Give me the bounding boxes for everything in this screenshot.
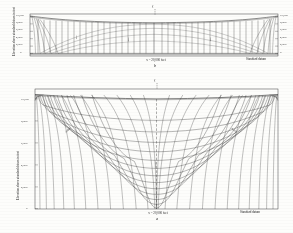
panel-b-ytick-2: 6,000 [16,27,23,31]
panel-b-centerline-tick-icon [154,9,156,15]
panel-b-interior-label-1: 200 [127,37,130,41]
panel-b-ytick-right-3: 4,000 [280,35,287,39]
panel-b-key: b [154,63,156,68]
panel-a-ytick-4: 2,000 [21,185,28,189]
panel-b-interior-label-0: 100 [75,35,78,39]
panel-b-ytick-5: 0 [20,50,21,54]
panel-a-flow-net: 10,000 8,000 6,000 4,000 2,000 0 4,000 4… [35,89,278,209]
panel-b-ytick-right-1: 8,000 [280,20,287,24]
panel-b-x-caption: x = 20,000 feet [116,58,196,62]
panel-b-plot-svg [30,14,278,56]
panel-a-datum-label: Standard datum [240,210,260,214]
panel-a-ytick-2: 6,000 [21,141,28,145]
panel-a-centerline-tick-icon [156,83,158,89]
panel-a-flowline-label-center: 8,000 [154,161,157,167]
panel-a-ytick-1: 8,000 [21,119,28,123]
figure-root: 10,000 8,000 6,000 4,000 2,000 0 10,000 … [0,0,293,233]
panel-a-x-caption: x = 20,000 feet [118,211,198,215]
panel-b-ytick-3: 4,000 [16,35,23,39]
panel-a-key: a [156,216,158,221]
panel-a-plot-svg [35,89,278,209]
panel-b-ytick-right-2: 6,000 [280,27,287,31]
panel-b-y-axis-label: Elevation above standard datum in feet [12,7,16,56]
panel-b-equipotentials-right [250,17,276,53]
panel-a-y-axis-label: Elevation above standard datum in feet [16,151,20,200]
panel-b-ytick-right-5: 0 [280,50,281,54]
panel-b-equipotentials-left [32,17,58,53]
panel-b-centerline-marker: ¢ [152,5,154,9]
panel-b-compressed-section: 10,000 8,000 6,000 4,000 2,000 0 10,000 … [30,14,278,56]
panel-b-ytick-1: 8,000 [16,20,23,24]
panel-a-ytick-3: 4,000 [21,163,28,167]
panel-a-flow-lines [36,95,276,209]
panel-b-water-table [30,16,278,23]
panel-a-centerline-marker: ¢ [154,79,156,83]
panel-a-ytick-0: 10,000 [21,97,29,101]
panel-b-ytick-0: 10,000 [16,13,24,17]
panel-b-interior-label-2: 300 [209,37,212,41]
panel-b-ytick-4: 2,000 [16,42,23,46]
panel-a-ytick-5: 0 [26,206,27,210]
panel-b-datum-label: Standard datum [246,57,266,61]
panel-b-flow-lines [38,19,270,53]
panel-a-frame [35,89,278,209]
panel-b-ytick-right-4: 2,000 [280,42,287,46]
panel-b-ytick-right-0: 10,000 [280,13,288,17]
